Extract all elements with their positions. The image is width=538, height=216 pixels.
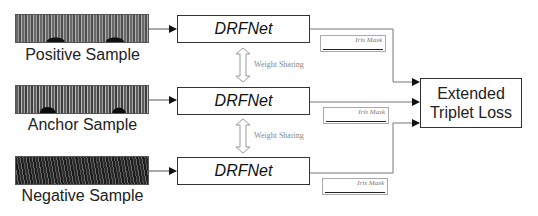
iris-mask-negative: Iris Mask — [322, 178, 388, 195]
drfnet-box-anchor: DRFNet — [177, 87, 310, 115]
iris-mask-label: Iris Mask — [355, 36, 382, 44]
anchor-sample-label: Anchor Sample — [0, 116, 165, 134]
drfnet-label: DRFNet — [215, 92, 273, 110]
weight-sharing-arrow-1 — [236, 48, 250, 82]
mask-baseline — [325, 192, 385, 193]
iris-mask-label: Iris Mask — [357, 179, 384, 187]
anchor-sample-image — [15, 85, 149, 114]
drfnet-box-positive: DRFNet — [177, 15, 310, 43]
weight-sharing-label-2: Weight Sharing — [254, 131, 304, 140]
mask-baseline — [326, 121, 386, 122]
negative-sample-label: Negative Sample — [0, 187, 165, 205]
drfnet-label: DRFNet — [215, 162, 273, 180]
mask-baseline — [323, 49, 383, 50]
loss-label-line2: Triplet Loss — [430, 103, 512, 122]
loss-label-line1: Extended — [437, 84, 505, 103]
positive-sample-label: Positive Sample — [0, 46, 165, 64]
positive-sample-image — [15, 14, 149, 43]
negative-sample-image — [15, 156, 149, 185]
extended-triplet-loss-box: Extended Triplet Loss — [420, 78, 522, 128]
weight-sharing-arrow-2 — [236, 119, 250, 153]
iris-mask-anchor: Iris Mask — [323, 107, 389, 124]
iris-mask-label: Iris Mask — [358, 108, 385, 116]
iris-mask-positive: Iris Mask — [320, 35, 386, 52]
drfnet-label: DRFNet — [215, 20, 273, 38]
weight-sharing-label-1: Weight Sharing — [254, 60, 304, 69]
drfnet-box-negative: DRFNet — [177, 157, 310, 185]
